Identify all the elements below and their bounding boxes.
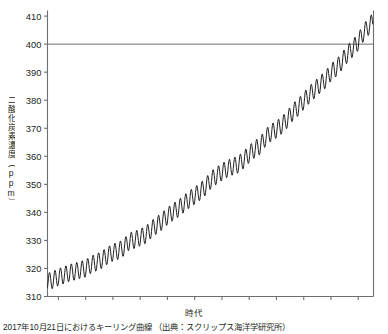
chart-axes xyxy=(48,11,374,297)
y-axis-label: 二酸化炭素濃度（ppm） xyxy=(1,66,15,236)
co2-data-line xyxy=(48,15,373,289)
svg-text:400: 400 xyxy=(26,39,42,50)
keeling-curve-chart: 310320330340350360370380390400410 196019… xyxy=(0,0,388,300)
svg-text:410: 410 xyxy=(26,11,42,22)
keeling-curve-figure: 310320330340350360370380390400410 196019… xyxy=(0,0,388,334)
x-axis-label: 時代 xyxy=(0,306,388,318)
svg-text:320: 320 xyxy=(26,263,42,274)
svg-text:370: 370 xyxy=(26,123,42,134)
chart-plot-area: 310320330340350360370380390400410 196019… xyxy=(0,0,388,300)
figure-caption: 2017年10月21日におけるキーリング曲線 （出典：スクリップス海洋学研究所） xyxy=(3,322,387,333)
svg-text:330: 330 xyxy=(26,235,42,246)
svg-text:360: 360 xyxy=(26,151,42,162)
svg-text:310: 310 xyxy=(26,291,42,300)
svg-text:350: 350 xyxy=(26,179,42,190)
svg-text:340: 340 xyxy=(26,207,42,218)
svg-text:380: 380 xyxy=(26,95,42,106)
svg-text:390: 390 xyxy=(26,67,42,78)
y-axis-ticks: 310320330340350360370380390400410 xyxy=(26,11,48,300)
